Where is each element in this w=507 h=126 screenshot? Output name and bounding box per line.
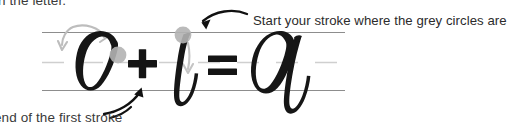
annotation-end-of-first-stroke: end of the first stroke: [0, 110, 122, 125]
plus-sign-glyph: [128, 49, 157, 78]
letter-a-glyph: [251, 31, 310, 114]
start-circle-o: [110, 47, 127, 64]
equals-sign-glyph: [208, 56, 237, 76]
start-circle-l: [175, 27, 192, 44]
pointer-arrow-start: [201, 11, 247, 30]
annotation-top-left: n the letter.: [0, 0, 66, 8]
letter-o-glyph: [75, 31, 118, 91]
annotation-start-your-stroke: Start your stroke where the grey circles…: [253, 13, 507, 28]
